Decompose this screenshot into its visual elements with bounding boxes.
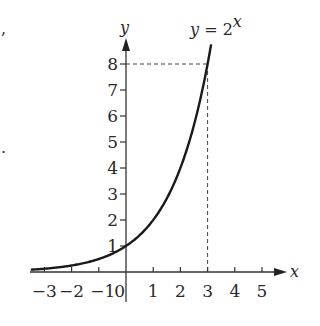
cropped-text-fragment: , [1,19,6,38]
function-label-eq: = 2 [199,20,233,39]
y-ticks: 12345678 [107,54,126,256]
exponential-chart: , . −3−2−1012345 12345678 x y y = 2x [0,0,320,326]
function-label-exponent: x [233,12,242,31]
x-axis-arrow-icon [274,268,287,276]
y-axis-arrow-icon [122,38,130,51]
y-tick-label: 2 [107,210,118,230]
x-tick-label: 2 [175,281,186,301]
x-tick-label: 4 [229,281,240,301]
x-tick-label: 0 [114,281,125,301]
x-tick-label: −2 [59,281,84,301]
y-tick-label: 6 [107,106,118,126]
x-tick-label: −1 [90,281,115,301]
y-tick-label: 8 [107,54,118,74]
x-tick-label: 1 [148,281,159,301]
y-tick-label: 5 [107,132,118,152]
dashed-guides [126,64,208,272]
x-tick-label: 5 [257,281,268,301]
cropped-text-fragment: . [1,138,6,157]
x-axis-label: x [290,262,299,281]
y-tick-label: 3 [107,184,118,204]
function-label: y = 2x [189,12,242,39]
exponential-curve [31,44,211,269]
x-tick-label: −3 [32,281,57,301]
y-tick-label: 7 [107,80,118,100]
y-tick-label: 4 [107,158,118,178]
x-tick-label: 3 [202,281,213,301]
y-axis-label: y [119,18,130,37]
